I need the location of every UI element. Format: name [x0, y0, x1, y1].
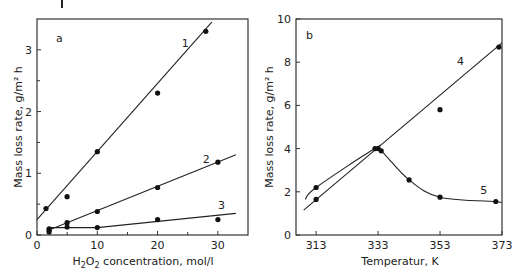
y-tick-label: 10 [277, 13, 291, 26]
x-tick-label: 10 [90, 239, 104, 252]
data-point [437, 107, 442, 112]
x-axis-label-b: Temperatur, K [360, 255, 439, 268]
data-point [47, 228, 52, 233]
y-tick-label: 2 [25, 106, 32, 119]
data-point [314, 197, 319, 202]
y-tick-label: 8 [284, 56, 291, 69]
x-tick-label: 30 [211, 239, 225, 252]
series-label-3: 3 [218, 199, 225, 212]
series-line-2 [49, 155, 236, 230]
data-point [95, 209, 100, 214]
x-tick-label: 313 [306, 239, 327, 252]
data-point [155, 91, 160, 96]
series-line-4 [304, 43, 502, 210]
series-line-1 [37, 22, 212, 220]
data-point [203, 29, 208, 34]
y-tick-label: 1 [25, 167, 32, 180]
x-tick-label: 20 [151, 239, 165, 252]
data-point [493, 199, 498, 204]
data-point [65, 194, 70, 199]
data-point [43, 206, 48, 211]
y-axis-label-b: Mass loss rate, g/m² h [263, 66, 276, 188]
data-point [155, 217, 160, 222]
panel-label-b: b [306, 29, 313, 42]
x-tick-label: 353 [430, 239, 451, 252]
chart-panel-b: 3133333533730246810 45 b Mass loss rate,… [263, 13, 513, 268]
data-point [407, 177, 412, 182]
data-point [372, 146, 377, 151]
data-point [496, 45, 501, 50]
panel-label-a: a [56, 32, 63, 45]
axis-ticks-b: 3133333533730246810 [277, 13, 513, 252]
y-tick-label: 6 [284, 99, 291, 112]
data-points-a [43, 29, 220, 235]
series-labels-a: 123 [182, 37, 225, 212]
data-points-b [314, 45, 502, 205]
data-point [314, 185, 319, 190]
data-point [95, 225, 100, 230]
page-margin-mark [61, 0, 63, 8]
series-label-2: 2 [203, 153, 210, 166]
data-point [215, 217, 220, 222]
plot-frame-a [37, 19, 248, 235]
data-point [215, 160, 220, 165]
data-point [65, 224, 70, 229]
series-label-4: 4 [457, 55, 464, 68]
series-label-1: 1 [182, 37, 189, 50]
data-point [95, 149, 100, 154]
series-label-5: 5 [480, 184, 487, 197]
data-point [155, 185, 160, 190]
plot-frame-b [296, 19, 502, 235]
y-axis-label-a: Mass loss rate, g/m² h [12, 66, 25, 188]
y-tick-label: 3 [25, 44, 32, 57]
y-tick-label: 4 [284, 143, 291, 156]
series-curve-5 [305, 145, 502, 202]
axis-ticks-a: 01020300123 [25, 44, 225, 252]
x-tick-label: 373 [492, 239, 513, 252]
chart-panel-a: 01020300123 123 a Mass loss rate, g/m² h… [12, 19, 248, 270]
y-tick-label: 2 [284, 186, 291, 199]
y-tick-label: 0 [284, 229, 291, 242]
x-tick-label: 0 [34, 239, 41, 252]
fit-lines-b [304, 43, 502, 210]
series-line-3 [49, 213, 236, 227]
x-tick-label: 333 [368, 239, 389, 252]
data-point [379, 148, 384, 153]
y-tick-label: 0 [25, 229, 32, 242]
chart-figure: 01020300123 123 a Mass loss rate, g/m² h… [0, 0, 513, 274]
data-point [437, 195, 442, 200]
x-axis-label-a: H2O2 concentration, mol/l [72, 255, 213, 270]
